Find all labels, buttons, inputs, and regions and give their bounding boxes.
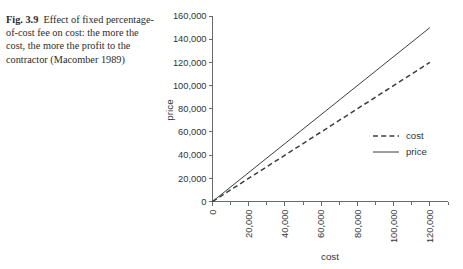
x-axis-tick-label: 0: [208, 210, 218, 215]
series-line-cost: [213, 62, 430, 201]
y-axis-tick-label: 60,000: [178, 127, 206, 137]
x-axis-title: cost: [321, 251, 339, 262]
y-axis-tick-label: 120,000: [173, 58, 207, 68]
figure-number: Fig. 3.9: [6, 14, 38, 25]
y-axis-tick-label: 100,000: [173, 81, 207, 91]
x-axis-tick-label: 40,000: [280, 210, 290, 238]
figure-caption: Fig. 3.9 Effect of fixed percentage-of-c…: [6, 13, 156, 66]
legend-label-cost: cost: [406, 130, 424, 141]
legend-label-price: price: [406, 146, 427, 157]
y-axis-title: price: [164, 99, 175, 121]
x-axis-tick-label: 60,000: [316, 210, 326, 238]
chart-series: [213, 28, 430, 202]
x-axis-tick-label: 80,000: [353, 210, 363, 238]
y-axis-tick-labels: 020,00040,00060,00080,000100,000120,0001…: [173, 11, 207, 207]
x-axis-tick-label: 20,000: [244, 210, 254, 238]
y-axis-ticks: [209, 16, 213, 202]
series-line-price: [213, 28, 430, 202]
y-axis-tick-label: 20,000: [178, 174, 206, 184]
y-axis-tick-label: 80,000: [178, 104, 206, 114]
x-axis-ticks: [213, 202, 449, 206]
y-axis-tick-label: 160,000: [173, 11, 207, 21]
y-axis-tick-label: 40,000: [178, 150, 206, 160]
x-axis-tick-labels: 020,00040,00060,00080,000100,000120,000: [208, 210, 435, 244]
y-axis-tick-label: 140,000: [173, 34, 207, 44]
x-axis-tick-label: 120,000: [425, 210, 435, 244]
y-axis-tick-label: 0: [201, 197, 206, 207]
x-axis-tick-label: 100,000: [389, 210, 399, 244]
chart-legend: costprice: [373, 130, 427, 157]
line-chart: 020,00040,00060,00080,000100,000120,0001…: [160, 0, 463, 269]
